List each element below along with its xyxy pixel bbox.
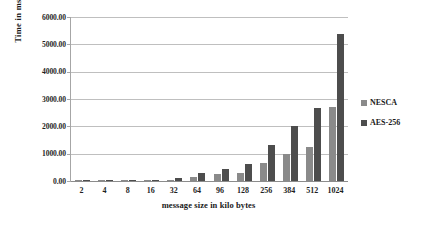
bar <box>144 180 151 181</box>
y-axis-tick-label: 3000.00 <box>22 95 66 104</box>
x-axis-tick-label: 32 <box>162 185 185 197</box>
bar <box>121 180 128 181</box>
x-axis-tick-labels: 248163264961282563845121024 <box>70 185 347 197</box>
bar <box>260 163 267 181</box>
bar-group <box>163 17 186 181</box>
bar <box>329 107 336 181</box>
legend-label: NESCA <box>370 98 397 108</box>
chart-legend: NESCAAES-256 <box>361 98 433 138</box>
y-axis-tickmark <box>67 181 71 182</box>
bar <box>83 180 90 181</box>
bar <box>306 147 313 181</box>
bar-group <box>94 17 117 181</box>
x-axis-tick-label: 384 <box>278 185 301 197</box>
x-axis-tick-label: 1024 <box>324 185 347 197</box>
x-axis-tick-label: 2 <box>70 185 93 197</box>
bar-group <box>233 17 256 181</box>
bar <box>214 174 221 181</box>
bar <box>106 180 113 181</box>
legend-label: AES-256 <box>370 118 400 128</box>
bar-group <box>209 17 232 181</box>
bar <box>337 34 344 181</box>
y-axis-tick-label: 2000.00 <box>22 122 66 131</box>
x-axis-tick-label: 512 <box>301 185 324 197</box>
y-axis-tick-label: 5000.00 <box>22 40 66 49</box>
y-axis-tick-label: 6000.00 <box>22 13 66 22</box>
bar-group <box>256 17 279 181</box>
legend-entry: NESCA <box>361 98 433 108</box>
x-axis-tick-label: 256 <box>255 185 278 197</box>
bar <box>245 164 252 181</box>
x-axis-title: message size in kilo bytes <box>70 200 347 210</box>
x-axis-tick-label: 128 <box>232 185 255 197</box>
bar-group <box>302 17 325 181</box>
bar-group <box>279 17 302 181</box>
bar-group <box>325 17 348 181</box>
y-axis-tick-labels: 6000.005000.004000.003000.002000.001000.… <box>22 11 66 187</box>
bar <box>268 145 275 181</box>
bar <box>98 180 105 181</box>
bar-group <box>186 17 209 181</box>
x-axis-tick-label: 4 <box>93 185 116 197</box>
legend-swatch-icon <box>361 120 367 126</box>
bar <box>314 108 321 181</box>
x-axis-tick-label: 64 <box>185 185 208 197</box>
legend-entry: AES-256 <box>361 118 433 128</box>
plot-area <box>70 17 348 181</box>
bar <box>152 180 159 181</box>
bar <box>237 173 244 181</box>
bar <box>75 180 82 181</box>
bars-layer <box>71 17 348 181</box>
bar <box>198 173 205 181</box>
y-axis-tick-label: 1000.00 <box>22 149 66 158</box>
x-axis-tick-label: 16 <box>139 185 162 197</box>
bar-group <box>117 17 140 181</box>
x-axis-tick-label: 96 <box>208 185 231 197</box>
bar <box>283 154 290 181</box>
bar-chart-figure: Time in ms 6000.005000.004000.003000.002… <box>0 0 435 225</box>
bar-group <box>140 17 163 181</box>
bar <box>167 180 174 181</box>
y-axis-tick-label: 0.00 <box>22 177 66 186</box>
bar-group <box>71 17 94 181</box>
x-axis-tick-label: 8 <box>116 185 139 197</box>
bar <box>175 178 182 181</box>
x-axis-line <box>71 181 348 182</box>
bar <box>222 169 229 181</box>
bar <box>291 126 298 181</box>
bar <box>190 177 197 181</box>
y-axis-tick-label: 4000.00 <box>22 67 66 76</box>
legend-swatch-icon <box>361 100 367 106</box>
bar <box>129 180 136 181</box>
